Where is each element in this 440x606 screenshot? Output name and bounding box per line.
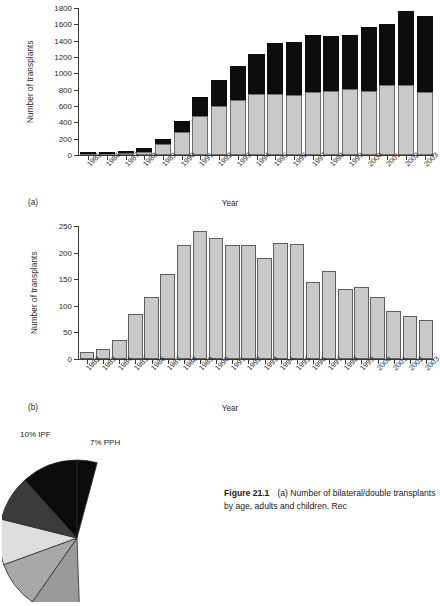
bar-segment-lower: [230, 100, 246, 155]
y-axis-tick-label: 200: [59, 134, 72, 143]
bar-segment-lower: [286, 95, 302, 155]
bar-segment-upper: [286, 42, 302, 94]
bar-stacked: [305, 35, 321, 155]
bar-segment-upper: [211, 80, 227, 106]
bar: [257, 258, 272, 359]
bar-segment-upper: [398, 11, 414, 85]
panel-a-label: (a): [28, 198, 38, 207]
bar-segment-lower: [305, 92, 321, 155]
panel-b-label: (b): [28, 403, 38, 412]
bar: [241, 245, 256, 359]
bar-stacked: [267, 43, 283, 155]
bar-stacked: [323, 36, 339, 155]
pie-slice-label: 7% PPH: [90, 438, 120, 447]
y-axis-tick-label: 1000: [54, 69, 72, 78]
bar: [128, 314, 143, 359]
y-axis-tick-label: 100: [59, 301, 72, 310]
bar-stacked: [286, 42, 302, 155]
panel-b-y-axis-title: Number of transplants: [30, 228, 39, 358]
bar: [290, 244, 305, 359]
bar-segment-lower: [361, 91, 377, 155]
bar-segment-lower: [379, 85, 395, 155]
bar-segment-lower: [248, 94, 264, 155]
pie-slice-black-lower: [77, 460, 97, 538]
bar-stacked: [342, 35, 358, 155]
bar: [322, 271, 337, 359]
bar-segment-upper: [174, 121, 190, 132]
y-axis-tick-label: 800: [59, 85, 72, 94]
bar: [354, 287, 369, 359]
y-axis-tick-label: 50: [63, 328, 72, 337]
y-axis-tick-label: 400: [59, 118, 72, 127]
bar-segment-lower: [267, 94, 283, 155]
pie-chart-svg: [2, 452, 152, 602]
bar-segment-upper: [305, 35, 321, 92]
bar-stacked: [174, 121, 190, 155]
y-axis-tick-label: 1600: [54, 20, 72, 29]
y-axis-tick-label: 0: [68, 151, 72, 160]
y-axis-tick-label: 1800: [54, 4, 72, 13]
pie-slice-label: 10% IPF: [20, 430, 51, 439]
bar: [370, 297, 385, 359]
bar-segment-upper: [323, 36, 339, 92]
panel-b-x-axis: 1982198319841985198619871988198919901991…: [79, 360, 434, 400]
bar-segment-upper: [361, 27, 377, 91]
figure-caption-number: Figure 21.1: [224, 488, 269, 498]
bar-stacked: [192, 97, 208, 155]
y-axis-tick-label: 600: [59, 102, 72, 111]
panel-b-plot-area: [79, 226, 434, 359]
bar-segment-upper: [155, 139, 171, 143]
bar: [193, 231, 208, 359]
bar: [144, 297, 159, 359]
y-axis-tick-label: 0: [68, 355, 72, 364]
bar: [403, 316, 418, 359]
bar-segment-lower: [417, 92, 433, 155]
bar-segment-lower: [174, 132, 190, 155]
bar: [419, 320, 434, 359]
bar-segment-upper: [267, 43, 283, 94]
chart-panel-b: Number of transplants 050100150200250 19…: [0, 220, 440, 420]
bar: [386, 311, 401, 359]
y-axis-tick-label: 1200: [54, 53, 72, 62]
bar-segment-lower: [323, 91, 339, 155]
bar-stacked: [398, 11, 414, 155]
y-axis-tick-label: 150: [59, 275, 72, 284]
bar-segment-upper: [192, 97, 208, 116]
bar-stacked: [248, 54, 264, 155]
panel-a-x-axis: 1985198619871988198919901991199219931994…: [79, 156, 434, 196]
bar: [225, 245, 240, 359]
bar-stacked: [417, 16, 433, 155]
pie-chart: 10% IPF7% PPH: [2, 452, 152, 602]
chart-panel-a: Number of transplants 020040060080010001…: [0, 0, 440, 212]
bar-segment-lower: [211, 106, 227, 155]
figure-caption-line1: (a) Number of bilateral/double: [277, 488, 391, 498]
bar-segment-upper: [379, 24, 395, 85]
panel-a-y-axis: 020040060080010001200140016001800: [42, 8, 78, 154]
bar-segment-upper: [417, 16, 433, 92]
bar-segment-lower: [398, 85, 414, 155]
figure-caption: Figure 21.1(a) Number of bilateral/doubl…: [224, 487, 438, 512]
panel-b-x-axis-title: Year: [200, 404, 260, 413]
panel-b-y-axis: 050100150200250: [46, 226, 78, 358]
bar-stacked: [379, 24, 395, 155]
bar-segment-lower: [342, 89, 358, 155]
bar-stacked: [230, 66, 246, 155]
bar-stacked: [361, 27, 377, 155]
bar: [306, 282, 321, 359]
bar: [177, 245, 192, 359]
panel-a-y-axis-title: Number of transplants: [26, 12, 35, 152]
bar-segment-lower: [192, 116, 208, 155]
bar-stacked: [211, 80, 227, 155]
y-axis-tick-label: 200: [59, 248, 72, 257]
bar-segment-upper: [248, 54, 264, 94]
bar: [273, 243, 288, 360]
bar: [209, 238, 224, 359]
bar-segment-upper: [230, 66, 246, 100]
y-axis-tick-label: 1400: [54, 36, 72, 45]
bar: [160, 274, 175, 359]
bar-segment-upper: [342, 35, 358, 90]
panel-a-x-axis-title: Year: [200, 199, 260, 208]
panel-a-plot-area: [79, 8, 434, 155]
bar: [338, 289, 353, 359]
y-axis-tick-label: 250: [59, 222, 72, 231]
